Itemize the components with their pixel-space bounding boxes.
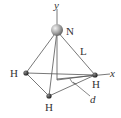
nitrogen-label: N	[66, 25, 74, 37]
hydrogen-atom-right	[92, 72, 97, 77]
nitrogen-atom	[51, 24, 63, 36]
ammonia-pyramid-diagram: y x N L H H H d	[0, 0, 121, 118]
bonds	[26, 31, 95, 96]
distance-label: d	[90, 93, 96, 105]
hydrogen-right-label: H	[92, 78, 100, 90]
y-axis-label: y	[53, 0, 59, 11]
x-axis-label: x	[109, 67, 115, 79]
hydrogen-left-label: H	[10, 67, 18, 79]
bond-length-label: L	[80, 45, 87, 57]
hydrogen-atom-left	[23, 70, 28, 75]
hydrogen-bottom-label: H	[45, 101, 53, 113]
hydrogen-atom-bottom	[46, 93, 51, 98]
